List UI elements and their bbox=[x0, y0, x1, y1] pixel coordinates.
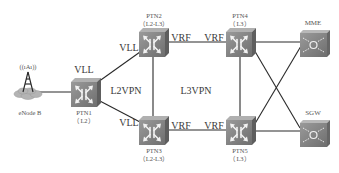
ptn5-label: PTN5 bbox=[232, 148, 248, 155]
enodeb-label: eNode B bbox=[19, 110, 42, 117]
link-ptn1-ptn2 bbox=[98, 52, 140, 82]
network-diagram bbox=[0, 0, 339, 173]
vrf-label-ptn4: VRF bbox=[204, 33, 223, 43]
sgw-label: SGW bbox=[305, 110, 321, 117]
ptn4-sublabel: （L3） bbox=[229, 21, 250, 28]
ptn3-router-icon bbox=[139, 116, 169, 145]
l2vpn-region-label: L2VPN bbox=[110, 86, 141, 96]
l3vpn-region-label: L3VPN bbox=[180, 86, 211, 96]
vrf-label-ptn2: VRF bbox=[171, 33, 190, 43]
vll-label-ptn3: VLL bbox=[119, 118, 138, 128]
ptn3-sublabel: （L2-L3） bbox=[139, 156, 170, 163]
ptn4-label: PTN4 bbox=[232, 13, 248, 20]
ptn1-router-icon bbox=[71, 78, 101, 107]
ptn4-router-icon bbox=[226, 28, 256, 57]
link-ptn5-mme bbox=[253, 46, 301, 127]
vll-label-ptn2: VLL bbox=[119, 43, 138, 53]
enodeb-icon bbox=[14, 72, 42, 100]
ptn5-sublabel: （L3） bbox=[229, 156, 250, 163]
ptn2-sublabel: （L2-L3） bbox=[139, 21, 170, 28]
mme-label: MME bbox=[305, 20, 322, 27]
ptn1-sublabel: （L2） bbox=[73, 118, 94, 125]
vll-label-ptn1: VLL bbox=[74, 65, 93, 75]
ptn2-router-icon bbox=[139, 28, 169, 57]
vrf-label-ptn3: VRF bbox=[171, 121, 190, 131]
sgw-node-icon bbox=[300, 120, 330, 147]
ptn3-label: PTN3 bbox=[146, 148, 162, 155]
mme-node-icon bbox=[300, 30, 330, 57]
ptn1-label: PTN1 bbox=[76, 110, 92, 117]
vrf-label-ptn5: VRF bbox=[204, 121, 223, 131]
ptn2-label: PTN2 bbox=[146, 13, 162, 20]
antenna-signal-label: ((ıAı)) bbox=[20, 64, 37, 71]
ptn5-router-icon bbox=[226, 116, 256, 145]
